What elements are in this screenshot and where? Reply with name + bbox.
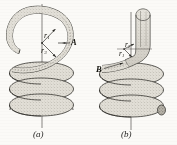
radius-label-a-r3: r3 (41, 47, 47, 56)
radius-subscript: 3 (44, 50, 46, 55)
caption-a: (a) (33, 129, 44, 139)
end-cap-b (158, 105, 166, 115)
radius-label-b-r1: r1 (119, 50, 124, 59)
end-cap-ellipse-b (158, 105, 166, 115)
radius-subscript: 1 (47, 35, 49, 40)
radius-label-a-r1: r1 (44, 32, 50, 41)
figure-root: A B r1 r3 r2 r1 (a) (b) (0, 0, 177, 145)
point-label-b: B (96, 65, 102, 74)
vertical-tube-b (125, 9, 150, 67)
radius-subscript: 1 (122, 53, 124, 58)
radius-label-b-r2: r2 (125, 41, 130, 50)
spring-figure-a-svg (0, 0, 177, 145)
a-arrowhead (62, 42, 66, 44)
point-label-a: A (71, 38, 77, 47)
panel-b (100, 9, 166, 130)
caption-b: (b) (121, 129, 132, 139)
radius-subscript: 2 (128, 44, 130, 49)
panel-a (0, 4, 74, 128)
